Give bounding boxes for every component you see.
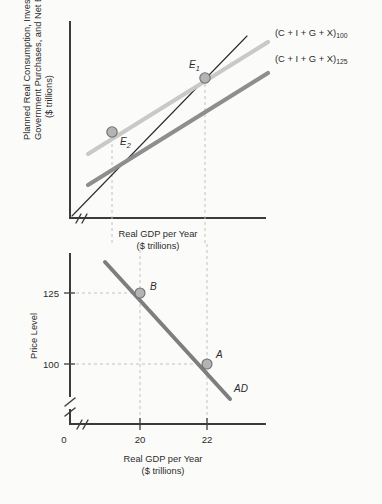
- origin-label: 0: [61, 434, 66, 445]
- bottom-x-axis-title-line2: ($ trillions): [142, 466, 185, 476]
- curve-label-100: (C + I + G + X)100: [275, 27, 348, 39]
- top-y-axis-title-line2: Government Purchases, and Net Exports: [33, 0, 43, 140]
- forty-five-degree-line: [72, 36, 247, 216]
- bottom-x-axis-title-line1: Real GDP per Year: [124, 454, 203, 464]
- point-b-label: B: [150, 281, 157, 292]
- point-e2: [107, 127, 117, 137]
- xtick-label-20: 20: [135, 434, 146, 445]
- point-e1-label: E1: [189, 59, 200, 73]
- top-y-axis-title-line3: ($ trillions): [44, 75, 54, 118]
- point-a: [202, 359, 212, 369]
- keynesian-cross-svg: E1 E2 (C + I + G + X)100 (C + I + G + X)…: [0, 0, 382, 252]
- point-e1: [200, 73, 210, 83]
- keynesian-cross-panel: E1 E2 (C + I + G + X)100 (C + I + G + X)…: [0, 0, 382, 252]
- aggregate-demand-panel: B A AD 125 100 20 22 0 Price Level Real …: [0, 244, 382, 504]
- top-y-axis-title-line1: Planned Real Consumption, Investment,: [22, 0, 32, 140]
- top-x-axis-title-line1: Real GDP per Year: [119, 229, 198, 239]
- ytick-label-100: 100: [43, 359, 59, 370]
- point-b: [135, 288, 145, 298]
- xtick-label-22: 22: [202, 434, 213, 445]
- bottom-y-axis-title: Price Level: [29, 313, 39, 359]
- aggregate-demand-svg: B A AD 125 100 20 22 0 Price Level Real …: [0, 244, 382, 504]
- curve-ad-label: AD: [233, 383, 248, 394]
- point-a-label: A: [215, 349, 223, 360]
- curve-label-125: (C + I + G + X)125: [275, 53, 348, 65]
- figure-container: E1 E2 (C + I + G + X)100 (C + I + G + X)…: [0, 0, 382, 504]
- point-e2-label: E2: [120, 136, 131, 150]
- ytick-label-125: 125: [43, 288, 59, 299]
- curve-ad: [105, 262, 230, 399]
- curve-cigx-100: [88, 42, 268, 154]
